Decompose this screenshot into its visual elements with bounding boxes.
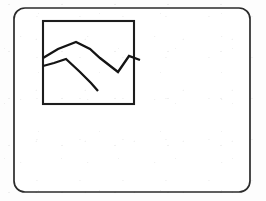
- icon-canvas: [0, 0, 266, 201]
- chart-icon-graphic: [0, 0, 266, 201]
